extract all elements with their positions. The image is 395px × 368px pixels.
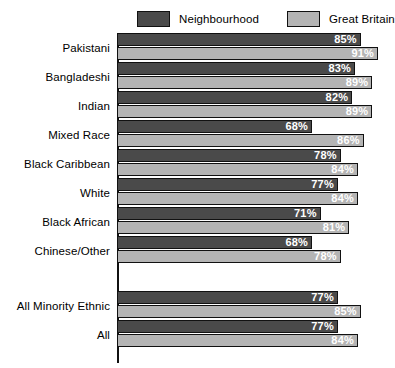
legend-swatch-icon bbox=[287, 11, 320, 27]
bar-group: White77%84% bbox=[0, 178, 375, 207]
legend-label-great-britain: Great Britain bbox=[329, 13, 395, 25]
bar-value-label: 89% bbox=[346, 77, 372, 88]
legend-item-great-britain: Great Britain bbox=[287, 11, 395, 27]
bar-value-label: 71% bbox=[294, 208, 320, 219]
bar-great-britain: 89% bbox=[117, 105, 372, 118]
bar-value-label: 86% bbox=[337, 135, 363, 146]
category-label: Bangladeshi bbox=[46, 71, 110, 83]
bar-group: Pakistani85%91% bbox=[0, 33, 375, 62]
bar-value-label: 85% bbox=[334, 34, 360, 45]
chart-legend: Neighbourhood Great Britain bbox=[0, 8, 375, 30]
legend-label-neighbourhood: Neighbourhood bbox=[179, 13, 259, 25]
bar-neighbourhood: 77% bbox=[117, 178, 338, 191]
bar-neighbourhood: 77% bbox=[117, 291, 338, 304]
category-label: Mixed Race bbox=[48, 129, 110, 141]
bar-neighbourhood: 85% bbox=[117, 33, 361, 46]
bar-great-britain: 89% bbox=[117, 76, 372, 89]
category-label: Black Caribbean bbox=[24, 158, 110, 170]
bar-value-label: 89% bbox=[346, 106, 372, 117]
bar-value-label: 84% bbox=[331, 164, 357, 175]
category-label: White bbox=[80, 187, 110, 199]
bar-group: Mixed Race68%86% bbox=[0, 120, 375, 149]
bar-neighbourhood: 82% bbox=[117, 91, 352, 104]
category-label: All Minority Ethnic bbox=[17, 300, 110, 312]
bar-value-label: 82% bbox=[326, 92, 352, 103]
bar-group: Black African71%81% bbox=[0, 207, 375, 236]
bar-neighbourhood: 68% bbox=[117, 120, 312, 133]
bar-value-label: 77% bbox=[311, 292, 337, 303]
bar-great-britain: 91% bbox=[117, 47, 378, 60]
bar-group: Chinese/Other68%78% bbox=[0, 236, 375, 265]
bar-value-label: 83% bbox=[328, 63, 354, 74]
bar-value-label: 85% bbox=[334, 306, 360, 317]
bar-group: Bangladeshi83%89% bbox=[0, 62, 375, 91]
bar-value-label: 91% bbox=[351, 48, 377, 59]
bar-value-label: 84% bbox=[331, 193, 357, 204]
bar-neighbourhood: 77% bbox=[117, 320, 338, 333]
category-label: Black African bbox=[42, 216, 110, 228]
bar-group: Black Caribbean78%84% bbox=[0, 149, 375, 178]
bar-value-label: 77% bbox=[311, 321, 337, 332]
bar-value-label: 81% bbox=[323, 222, 349, 233]
bar-great-britain: 81% bbox=[117, 221, 349, 234]
bar-group: Indian82%89% bbox=[0, 91, 375, 120]
legend-item-neighbourhood: Neighbourhood bbox=[137, 11, 259, 27]
bar-value-label: 77% bbox=[311, 179, 337, 190]
chart-plot-area: Pakistani85%91%Bangladeshi83%89%Indian82… bbox=[0, 31, 375, 368]
bar-neighbourhood: 78% bbox=[117, 149, 341, 162]
bar-great-britain: 78% bbox=[117, 250, 341, 263]
bar-value-label: 78% bbox=[314, 251, 340, 262]
bar-great-britain: 84% bbox=[117, 334, 358, 347]
bar-value-label: 68% bbox=[285, 121, 311, 132]
category-label: Pakistani bbox=[62, 42, 110, 54]
bar-value-label: 78% bbox=[314, 150, 340, 161]
bar-great-britain: 85% bbox=[117, 305, 361, 318]
bar-neighbourhood: 71% bbox=[117, 207, 321, 220]
category-label: Indian bbox=[78, 100, 110, 112]
bar-group: All Minority Ethnic77%85% bbox=[0, 291, 375, 320]
bar-neighbourhood: 83% bbox=[117, 62, 355, 75]
bar-great-britain: 84% bbox=[117, 163, 358, 176]
bar-group: All77%84% bbox=[0, 320, 375, 349]
bar-great-britain: 86% bbox=[117, 134, 364, 147]
category-label: Chinese/Other bbox=[35, 245, 110, 257]
bar-great-britain: 84% bbox=[117, 192, 358, 205]
category-label: All bbox=[97, 329, 110, 341]
bar-value-label: 68% bbox=[285, 237, 311, 248]
bar-neighbourhood: 68% bbox=[117, 236, 312, 249]
legend-swatch-icon bbox=[137, 11, 170, 27]
bar-value-label: 84% bbox=[331, 335, 357, 346]
